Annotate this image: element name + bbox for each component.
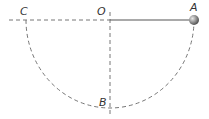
label-c: C [20, 5, 28, 18]
label-o: O [97, 5, 106, 18]
pendulum-diagram: C O A B [0, 0, 209, 119]
label-b: B [99, 96, 107, 109]
ball [189, 15, 199, 25]
label-a: A [189, 1, 198, 14]
